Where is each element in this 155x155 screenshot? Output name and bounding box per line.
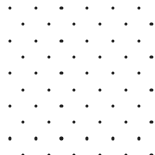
dot — [21, 121, 24, 124]
dot — [137, 72, 140, 75]
dot — [98, 121, 101, 124]
dot — [86, 137, 89, 140]
dot — [34, 104, 37, 107]
dot — [111, 72, 114, 75]
dot — [73, 23, 76, 26]
dot — [98, 55, 101, 58]
dot — [34, 72, 37, 75]
dot — [47, 121, 50, 124]
dot — [8, 72, 11, 75]
dot — [60, 104, 63, 107]
dot — [111, 39, 114, 42]
dot — [73, 121, 76, 124]
dot — [21, 55, 24, 58]
dot — [8, 137, 11, 140]
dot — [60, 137, 63, 140]
dot — [137, 104, 140, 107]
dot — [111, 104, 114, 107]
dot — [150, 153, 153, 155]
dot — [150, 88, 153, 91]
dot — [98, 153, 101, 155]
dot — [21, 88, 24, 91]
dot — [98, 88, 101, 91]
dot — [8, 6, 11, 9]
dot — [124, 88, 127, 91]
dot — [150, 23, 153, 26]
dot — [98, 23, 101, 26]
dot — [47, 23, 50, 26]
dot — [8, 39, 11, 42]
dot — [73, 88, 76, 91]
dot — [137, 39, 140, 42]
dot — [34, 137, 37, 140]
dot — [47, 88, 50, 91]
dot — [111, 6, 114, 9]
dot — [73, 55, 76, 58]
dot — [124, 121, 127, 124]
dot — [150, 55, 153, 58]
dot — [111, 137, 114, 140]
dot — [137, 6, 140, 9]
dot — [73, 153, 76, 155]
dot — [47, 153, 50, 155]
dot — [21, 23, 24, 26]
dot — [86, 39, 89, 42]
dot — [124, 55, 127, 58]
dot — [60, 6, 63, 9]
polka-dot-pattern-canvas — [0, 0, 155, 155]
dot — [137, 137, 140, 140]
dot — [8, 104, 11, 107]
dot — [60, 39, 63, 42]
dot — [86, 72, 89, 75]
dot — [150, 121, 153, 124]
dot — [124, 23, 127, 26]
dot — [124, 153, 127, 155]
dot — [60, 72, 63, 75]
dot — [21, 153, 24, 155]
dot — [34, 6, 37, 9]
dot — [34, 39, 37, 42]
dot — [47, 55, 50, 58]
dot — [86, 6, 89, 9]
dot — [86, 104, 89, 107]
